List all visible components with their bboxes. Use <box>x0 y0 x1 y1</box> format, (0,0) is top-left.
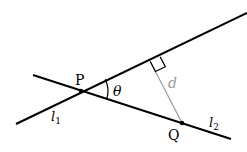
distance-d-label: d <box>168 75 177 91</box>
diagram-canvas: P Q θ d l1 l2 <box>0 0 247 152</box>
line-l2 <box>33 75 231 139</box>
angle-theta-label: θ <box>113 83 122 99</box>
point-p-dot <box>79 89 83 93</box>
point-p-label: P <box>75 72 84 88</box>
line-l2-label: l2 <box>209 115 219 132</box>
angle-arc-theta <box>105 79 108 99</box>
point-q-dot <box>180 121 184 125</box>
line-l1-label: l1 <box>51 109 61 126</box>
point-q-label: Q <box>168 127 179 143</box>
